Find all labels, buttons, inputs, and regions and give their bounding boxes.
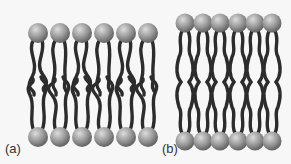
lipid-head bbox=[229, 132, 248, 151]
lipid-head bbox=[116, 23, 136, 43]
lipid-tail bbox=[188, 82, 193, 133]
lipid-tail bbox=[97, 39, 101, 95]
lipid-head bbox=[50, 127, 70, 147]
lipid-tail bbox=[241, 82, 246, 133]
lipid-tail bbox=[206, 31, 211, 82]
lipid-head bbox=[72, 23, 92, 43]
lipid-head bbox=[72, 127, 92, 147]
lipid-tail bbox=[141, 39, 145, 95]
lipid-head bbox=[28, 127, 48, 147]
lipid-head bbox=[211, 14, 230, 33]
lipid-head bbox=[194, 14, 213, 33]
lipid-head bbox=[229, 14, 248, 33]
lipid-head bbox=[116, 127, 136, 147]
lipid-head bbox=[176, 132, 195, 151]
lipid-tail bbox=[258, 82, 263, 133]
lipid-head bbox=[138, 23, 158, 43]
lipid-tail bbox=[53, 39, 57, 95]
lipid-tail bbox=[275, 82, 280, 133]
lipid-head bbox=[263, 14, 282, 33]
lipid-head bbox=[211, 132, 230, 151]
lipid-tail bbox=[275, 31, 280, 82]
lipid-tail bbox=[188, 31, 193, 82]
lipid-head bbox=[28, 23, 48, 43]
lipid-tail bbox=[212, 82, 217, 133]
lipid-tail bbox=[258, 31, 263, 82]
lipid-head bbox=[94, 23, 114, 43]
lipid-head bbox=[50, 23, 70, 43]
lipid-tail bbox=[206, 82, 211, 133]
panel-a-disordered-bilayer bbox=[28, 23, 158, 147]
lipid-tail bbox=[230, 31, 235, 82]
lipid-tail bbox=[230, 82, 235, 133]
lipid-tail bbox=[195, 82, 200, 133]
lipid-head bbox=[176, 14, 195, 33]
lipid-tail bbox=[264, 82, 269, 133]
lipid-head bbox=[263, 132, 282, 151]
lipid-tail bbox=[212, 31, 217, 82]
lipid-tail bbox=[177, 31, 182, 82]
figure-canvas: (a) (b) bbox=[0, 0, 291, 164]
lipid-tail bbox=[247, 31, 252, 82]
panel-b-ordered-bilayer bbox=[176, 14, 282, 151]
lipid-tail bbox=[247, 82, 252, 133]
lipid-tail bbox=[264, 31, 269, 82]
panel-a-label: (a) bbox=[5, 141, 21, 156]
lipid-tail bbox=[223, 82, 228, 133]
lipid-tail bbox=[177, 82, 182, 133]
lipid-head bbox=[138, 127, 158, 147]
lipid-head bbox=[94, 127, 114, 147]
lipid-bilayer-figure: (a) (b) bbox=[0, 0, 291, 164]
lipid-tail bbox=[241, 31, 246, 82]
lipid-head bbox=[246, 132, 265, 151]
panel-b-label: (b) bbox=[162, 141, 178, 156]
lipid-tail bbox=[195, 31, 200, 82]
lipid-head bbox=[194, 132, 213, 151]
lipid-head bbox=[246, 14, 265, 33]
lipid-tail bbox=[223, 31, 228, 82]
